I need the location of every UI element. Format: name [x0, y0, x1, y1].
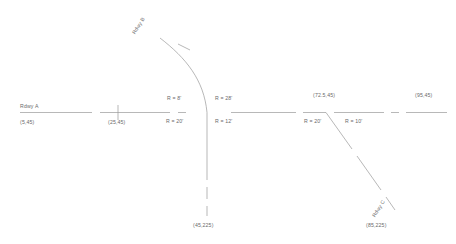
coordinate-c-station: (72.5,45): [313, 93, 335, 98]
radius-b-southwest: R = 20': [166, 119, 183, 124]
radius-c-southwest: R = 20': [304, 119, 321, 124]
coordinate-b-end: (45,225): [193, 223, 214, 228]
radius-b-northwest: R = 8': [167, 96, 181, 101]
rdwy-b-dash-upper: [178, 44, 190, 50]
rdwy-a-label: Rdwy A: [20, 104, 39, 109]
drawing-canvas: Rdwy B Rdwy A Rdwy C R = 8' R = 28' R = …: [0, 0, 456, 244]
rdwy-c-segment-2: [357, 156, 381, 190]
coordinate-a-start: (5,45): [20, 120, 34, 125]
coordinate-a-tick: (25,45): [108, 120, 126, 125]
rdwy-b-curve: [160, 38, 207, 113]
coordinate-a-end: (95,45): [415, 93, 433, 98]
rdwy-c-segment-3: [386, 197, 395, 210]
radius-c-southeast: R = 10': [345, 119, 362, 124]
radius-b-northeast: R = 28': [215, 96, 232, 101]
coordinate-c-end: (85,225): [366, 223, 387, 228]
radius-b-southeast: R = 12': [215, 119, 232, 124]
